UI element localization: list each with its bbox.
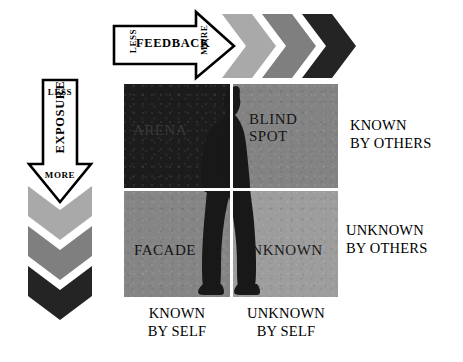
quadrant-blind-spot[interactable]: BLIND SPOT xyxy=(233,84,338,188)
exposure-arrow-down-icon xyxy=(0,0,124,362)
feedback-axis-high-label: MORE xyxy=(199,27,209,55)
exposure-axis-high-label: MORE xyxy=(44,170,76,180)
quadrant-arena[interactable]: ARENA xyxy=(124,84,230,188)
quadrant-unknown-label: UNKNOWN xyxy=(240,242,323,259)
quadrant-facade-label: FACADE xyxy=(134,242,196,259)
exposure-axis-group: LESS EXPOSURE MORE xyxy=(0,0,124,362)
quadrant-blind-spot-label: BLIND SPOT xyxy=(249,111,297,145)
exposure-axis-name: EXPOSURE xyxy=(53,118,68,154)
row-label-known-by-others: KNOWN BY OTHERS xyxy=(350,117,431,153)
column-label-unknown-by-self: UNKNOWN BY SELF xyxy=(232,305,340,341)
quadrant-facade[interactable]: FACADE xyxy=(124,191,230,297)
johari-window-diagram: LESS FEEDBACK MORE LESS EXPOSURE MORE AR… xyxy=(0,0,463,362)
quadrant-unknown[interactable]: UNKNOWN xyxy=(233,191,338,297)
column-label-known-by-self: KNOWN BY SELF xyxy=(124,305,230,341)
johari-quadrant-grid: ARENA BLIND SPOT FACADE UNKNOWN xyxy=(124,84,338,297)
row-label-unknown-by-others: UNKNOWN BY OTHERS xyxy=(346,222,427,258)
grid-divider-horizontal xyxy=(124,188,338,191)
quadrant-arena-label: ARENA xyxy=(133,122,187,139)
